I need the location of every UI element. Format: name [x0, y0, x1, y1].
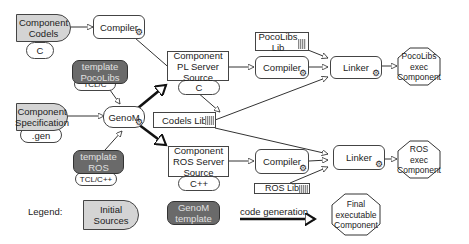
- label-line: Final: [347, 199, 365, 209]
- label-line: ROS Server: [173, 156, 224, 167]
- ros-lib-node[interactable]: ROS Lib: [254, 183, 310, 194]
- node-label: Codels Lib: [162, 115, 207, 126]
- node-label: ComponentCodels: [19, 17, 68, 39]
- label-line: Lib: [272, 42, 285, 53]
- compiler-node[interactable]: Compiler ⚙: [93, 15, 145, 39]
- label-line: PL Server: [177, 61, 219, 72]
- pocolibs-exec-component-node[interactable]: PocoLibsexecComponent: [398, 49, 440, 85]
- legend-label: FinalexecutableComponent: [334, 199, 378, 231]
- label-line: Component: [17, 106, 66, 117]
- label-line: Component: [174, 145, 223, 156]
- codels-lib-node[interactable]: Codels Lib: [153, 112, 216, 128]
- ros-source-lang-tag: C++: [178, 176, 220, 191]
- ros-server-source-node[interactable]: ComponentROS ServerSource: [168, 146, 229, 177]
- ros-exec-component-node[interactable]: ROSexecComponent: [398, 142, 440, 178]
- component-codels-node[interactable]: ComponentCodels: [16, 14, 71, 42]
- node-label: ComponentROS ServerSource: [173, 145, 224, 178]
- node-label: Compiler: [263, 156, 301, 167]
- lang-label: C: [37, 45, 44, 56]
- library-icon: [299, 185, 308, 193]
- component-specification-node[interactable]: ComponentSpecification: [16, 103, 68, 131]
- label-line: Source: [183, 72, 213, 83]
- label-line: PocoLibs: [258, 31, 297, 42]
- library-icon: [298, 39, 306, 49]
- label-line: template: [82, 61, 118, 72]
- label-line: Codels: [29, 28, 59, 39]
- library-icon: [205, 116, 214, 125]
- legend-initial-sources: Initial Sources: [83, 200, 139, 230]
- node-label: Compiler: [100, 22, 138, 33]
- label-line: Specification: [15, 117, 69, 128]
- node-label: Linker: [343, 62, 369, 73]
- label-line: Component: [173, 50, 222, 61]
- gear-icon: ⚙: [135, 27, 143, 37]
- template-pocolibs-node[interactable]: templatePocoLibs: [72, 60, 128, 84]
- gear-icon: ⚙: [299, 163, 307, 173]
- label-line: Component: [334, 220, 378, 230]
- compiler-pl-node[interactable]: Compiler ⚙: [255, 56, 309, 79]
- lang-label: C++: [190, 178, 208, 189]
- linker-pl-node[interactable]: Linker ⚙: [330, 56, 382, 79]
- legend-label: Initial Sources: [84, 204, 138, 226]
- lang-label: C: [196, 82, 203, 93]
- gear-icon: ⚙: [135, 117, 143, 127]
- node-label: Compiler: [263, 62, 301, 73]
- node-label: ComponentPL ServerSource: [173, 50, 222, 83]
- gear-icon: ⚙: [372, 68, 380, 78]
- label-line: ROS: [88, 162, 109, 173]
- node-label: ROSexecComponent: [397, 144, 441, 176]
- label-line: executable: [335, 210, 376, 220]
- legend-code-generation: code generation: [240, 206, 320, 217]
- pl-server-source-node[interactable]: ComponentPL ServerSource: [167, 51, 229, 81]
- connection-wires: [0, 0, 469, 244]
- legend-label: GenoMtemplate: [175, 202, 211, 224]
- label-line: Source: [183, 167, 213, 178]
- lang-label: TCL/C++: [80, 175, 112, 184]
- genom-node[interactable]: GenoM ⚙: [103, 106, 145, 128]
- label-line: PocoLibs: [80, 72, 119, 83]
- gear-icon: ⚙: [375, 159, 383, 169]
- node-label: templateROS: [80, 151, 116, 173]
- gear-icon: ⚙: [299, 68, 307, 78]
- codels-lang-tag: C: [26, 42, 54, 59]
- node-label: templatePocoLibs: [80, 61, 119, 83]
- legend-final-executable: FinalexecutableComponent: [332, 196, 380, 234]
- label-line: template: [80, 151, 116, 162]
- label-line: PocoLibs: [402, 51, 437, 61]
- label-line: GenoM: [178, 202, 209, 213]
- template-ros-node[interactable]: templateROS: [73, 150, 124, 174]
- legend-title: Legend:: [28, 206, 68, 217]
- pocolibs-lib-node[interactable]: PocoLibsLib: [255, 32, 309, 51]
- label-line: template: [175, 213, 211, 224]
- node-label: PocoLibsexecComponent: [397, 51, 441, 83]
- node-label: ComponentSpecification: [15, 106, 69, 128]
- label-line: Component: [397, 72, 441, 82]
- label-line: exec: [410, 155, 428, 165]
- label-line: Component: [19, 17, 68, 28]
- linker-ros-node[interactable]: Linker ⚙: [333, 145, 385, 170]
- label-line: ROS: [410, 144, 428, 154]
- node-label: Linker: [346, 152, 372, 163]
- node-label: ROS Lib: [265, 183, 299, 194]
- compiler-ros-node[interactable]: Compiler ⚙: [255, 149, 309, 174]
- ros-lang-tag: TCL/C++: [75, 172, 117, 186]
- lang-label: .gen: [32, 130, 51, 141]
- label-line: Component: [397, 165, 441, 175]
- legend-genom-template: GenoMtemplate: [167, 201, 220, 225]
- label-line: exec: [410, 62, 428, 72]
